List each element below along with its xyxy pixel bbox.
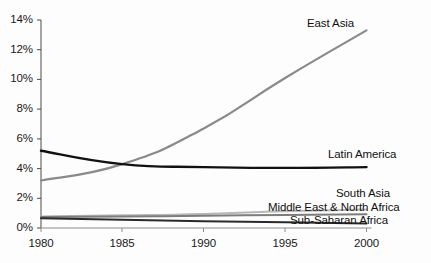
series-label-east-asia: East Asia [307,17,354,29]
series-line-east-asia [41,30,367,180]
x-tick-label: 1980 [21,237,61,249]
y-tick-label: 4% [0,162,33,174]
y-tick-label: 10% [0,72,33,84]
series-line-latin-america [41,151,367,168]
x-tick-label: 1990 [184,237,224,249]
y-tick-label: 0% [0,221,33,233]
y-tick-label: 14% [0,13,33,25]
series-label-middle-east-north-africa: Middle East & North Africa [268,201,400,213]
y-tick-label: 6% [0,132,33,144]
series-label-south-asia: South Asia [336,187,390,199]
x-tick-label: 1985 [102,237,142,249]
y-tick-label: 2% [0,191,33,203]
series-lines [41,30,367,223]
x-tick-label: 2000 [347,237,387,249]
y-tick-label: 12% [0,43,33,55]
series-label-sub-saharan-africa: Sub-Saharan Africa [290,214,388,226]
y-tick-label: 8% [0,102,33,114]
line-chart: 14%12%10%8%6%4%2%0% 19801985199019952000… [0,0,431,263]
series-label-latin-america: Latin America [328,148,396,160]
x-tick-label: 1995 [265,237,305,249]
